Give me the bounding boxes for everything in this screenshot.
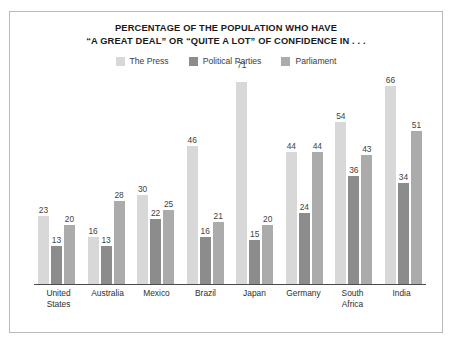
bar-column[interactable]: 34 bbox=[398, 82, 409, 285]
bar-value-label: 16 bbox=[88, 226, 97, 236]
legend-swatch-icon bbox=[116, 57, 125, 66]
chart-frame: PERCENTAGE OF THE POPULATION WHO HAVE “A… bbox=[9, 11, 443, 333]
bar[interactable] bbox=[385, 86, 396, 285]
bar[interactable] bbox=[335, 122, 346, 285]
bar-value-label: 21 bbox=[214, 211, 223, 221]
bar-column[interactable]: 44 bbox=[312, 82, 323, 285]
bar-groups: 2313201613283022254616217115204424445436… bbox=[38, 82, 422, 285]
bar-column[interactable]: 22 bbox=[150, 82, 161, 285]
bar-value-label: 24 bbox=[300, 202, 309, 212]
bar-column[interactable]: 21 bbox=[213, 82, 224, 285]
bar[interactable] bbox=[114, 201, 125, 285]
bar[interactable] bbox=[187, 146, 198, 285]
bar-column[interactable]: 16 bbox=[200, 82, 211, 285]
bar-value-label: 13 bbox=[101, 235, 110, 245]
x-axis-label: India bbox=[381, 288, 422, 299]
chart-title: PERCENTAGE OF THE POPULATION WHO HAVE “A… bbox=[10, 22, 442, 48]
bar[interactable] bbox=[411, 131, 422, 285]
bar-value-label: 13 bbox=[52, 235, 61, 245]
bar-value-label: 20 bbox=[65, 214, 74, 224]
bar[interactable] bbox=[64, 225, 75, 285]
bar[interactable] bbox=[236, 82, 247, 285]
legend-label: Parliament bbox=[295, 56, 336, 66]
bar-group: 461621 bbox=[187, 82, 224, 285]
bar[interactable] bbox=[312, 152, 323, 285]
legend-item: Parliament bbox=[281, 56, 336, 66]
bar-value-label: 71 bbox=[237, 60, 246, 70]
bar-value-label: 44 bbox=[313, 141, 322, 151]
bar-value-label: 36 bbox=[349, 165, 358, 175]
bar[interactable] bbox=[249, 240, 260, 285]
bar-column[interactable]: 23 bbox=[38, 82, 49, 285]
bar-value-label: 44 bbox=[287, 141, 296, 151]
legend-item: Political Parties bbox=[189, 56, 262, 66]
plot-inner: 2313201613283022254616217115204424445436… bbox=[30, 82, 430, 324]
bar-value-label: 43 bbox=[362, 144, 371, 154]
x-axis-labels: United StatesAustraliaMexicoBrazilJapanG… bbox=[38, 284, 422, 324]
bar-group: 302225 bbox=[137, 82, 174, 285]
legend-item: The Press bbox=[116, 56, 169, 66]
bar-column[interactable]: 13 bbox=[51, 82, 62, 285]
bar-column[interactable]: 30 bbox=[137, 82, 148, 285]
legend-swatch-icon bbox=[189, 57, 198, 66]
chart-title-line-1: PERCENTAGE OF THE POPULATION WHO HAVE bbox=[10, 22, 442, 35]
chart-title-line-2: “A GREAT DEAL” OR “QUITE A LOT” OF CONFI… bbox=[10, 35, 442, 48]
bar-value-label: 34 bbox=[399, 172, 408, 182]
bar[interactable] bbox=[200, 237, 211, 285]
x-axis-label: United States bbox=[38, 288, 79, 309]
bar-column[interactable]: 25 bbox=[163, 82, 174, 285]
bar[interactable] bbox=[286, 152, 297, 285]
bar-column[interactable]: 20 bbox=[64, 82, 75, 285]
legend-swatch-icon bbox=[281, 57, 290, 66]
bar[interactable] bbox=[88, 237, 99, 285]
legend-label: Political Parties bbox=[203, 56, 262, 66]
bar[interactable] bbox=[38, 216, 49, 285]
bar-value-label: 16 bbox=[201, 226, 210, 236]
bar[interactable] bbox=[361, 155, 372, 285]
bar-value-label: 54 bbox=[336, 111, 345, 121]
bar-group: 543643 bbox=[335, 82, 372, 285]
bar-value-label: 15 bbox=[250, 229, 259, 239]
bar[interactable] bbox=[150, 219, 161, 285]
bar-value-label: 23 bbox=[39, 205, 48, 215]
bar[interactable] bbox=[262, 225, 273, 285]
bar-column[interactable]: 66 bbox=[385, 82, 396, 285]
bar[interactable] bbox=[51, 246, 62, 285]
bar-column[interactable]: 51 bbox=[411, 82, 422, 285]
bar-group: 231320 bbox=[38, 82, 75, 285]
bar[interactable] bbox=[101, 246, 112, 285]
x-axis-label: Brazil bbox=[185, 288, 226, 299]
bar-column[interactable]: 15 bbox=[249, 82, 260, 285]
bar[interactable] bbox=[137, 195, 148, 285]
x-axis-label: Germany bbox=[283, 288, 324, 299]
bar[interactable] bbox=[398, 183, 409, 285]
bar[interactable] bbox=[213, 222, 224, 285]
bar-value-label: 28 bbox=[114, 190, 123, 200]
bar-value-label: 22 bbox=[151, 208, 160, 218]
bar-column[interactable]: 46 bbox=[187, 82, 198, 285]
bar[interactable] bbox=[348, 176, 359, 285]
bar-column[interactable]: 20 bbox=[262, 82, 273, 285]
bar-column[interactable]: 24 bbox=[299, 82, 310, 285]
bar-value-label: 30 bbox=[138, 184, 147, 194]
x-axis-label: South Africa bbox=[332, 288, 373, 309]
bar-value-label: 66 bbox=[386, 75, 395, 85]
bar-column[interactable]: 71 bbox=[236, 82, 247, 285]
bar-column[interactable]: 28 bbox=[114, 82, 125, 285]
bar-column[interactable]: 43 bbox=[361, 82, 372, 285]
bar[interactable] bbox=[163, 210, 174, 285]
bar-column[interactable]: 54 bbox=[335, 82, 346, 285]
bar-column[interactable]: 16 bbox=[88, 82, 99, 285]
legend-label: The Press bbox=[130, 56, 169, 66]
bar-column[interactable]: 13 bbox=[101, 82, 112, 285]
x-axis-label: Australia bbox=[87, 288, 128, 299]
bar-column[interactable]: 36 bbox=[348, 82, 359, 285]
bar-group: 663451 bbox=[385, 82, 422, 285]
bar-column[interactable]: 44 bbox=[286, 82, 297, 285]
bar[interactable] bbox=[299, 213, 310, 285]
x-axis-label: Mexico bbox=[136, 288, 177, 299]
bar-group: 161328 bbox=[88, 82, 125, 285]
bar-value-label: 20 bbox=[263, 214, 272, 224]
bar-group: 442444 bbox=[286, 82, 323, 285]
bar-value-label: 46 bbox=[188, 135, 197, 145]
